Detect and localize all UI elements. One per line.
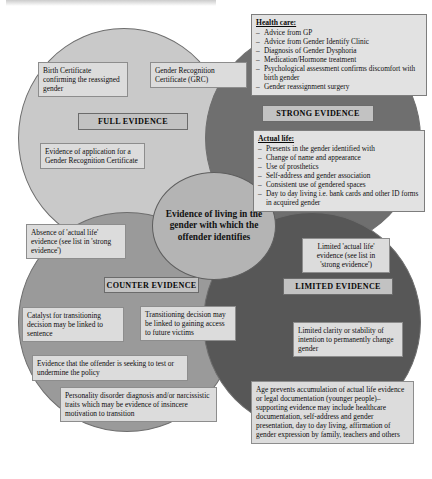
list-item: Diagnosis of Gender Dysphoria: [256, 46, 422, 55]
list-item: Change of name and appearance: [258, 153, 420, 162]
box-catalyst-sentence: Catalyst for transitioning decision may …: [22, 307, 124, 342]
box-personality-disorder-text: Personality disorder diagnosis and/or na…: [61, 388, 216, 421]
label-strong-evidence: STRONG EVIDENCE: [262, 105, 374, 122]
label-full-evidence: FULL EVIDENCE: [78, 113, 188, 130]
list-item: Day to day living i.e. bank cards and ot…: [258, 189, 420, 207]
listbox-actual-life-heading: Actual life:: [258, 134, 420, 143]
label-strong-evidence-text: STRONG EVIDENCE: [276, 109, 359, 118]
list-item: Advice from GP: [256, 28, 422, 37]
list-item: Presents in the gender identified with: [258, 144, 420, 153]
listbox-health-care: Health care: Advice from GPAdvice from G…: [251, 14, 427, 96]
listbox-health-care-heading: Health care:: [256, 18, 422, 27]
box-catalyst-sentence-text: Catalyst for transitioning decision may …: [23, 308, 123, 341]
evidence-diagram: Evidence of living in the gender with wh…: [0, 0, 432, 479]
box-limited-actual-life-text: Limited 'actual life' evidence (see list…: [303, 239, 389, 272]
box-gra-application: Evidence of application for a Gender Rec…: [40, 143, 145, 169]
list-item: Advice from Gender Identify Clinic: [256, 37, 422, 46]
box-absence-actual-life: Absence of 'actual life' evidence (see l…: [26, 224, 126, 259]
box-absence-actual-life-text: Absence of 'actual life' evidence (see l…: [27, 225, 125, 258]
list-item: Use of prosthetics: [258, 162, 420, 171]
box-limited-actual-life: Limited 'actual life' evidence (see list…: [302, 238, 390, 273]
box-birth-certificate: Birth Certificate confirming the reassig…: [38, 62, 128, 97]
box-age-prevents-accumulation: Age prevents accumulation of actual life…: [251, 381, 414, 444]
box-gender-recognition-certificate-text: Gender Recognition Certificate (GRC): [151, 63, 246, 87]
page-edge-artifact: [6, 0, 216, 6]
box-transitioning-access: Transitioning decision may be linked to …: [140, 306, 236, 341]
box-limited-clarity-text: Limited clarity or stability of intentio…: [294, 323, 402, 356]
box-limited-clarity: Limited clarity or stability of intentio…: [293, 322, 403, 357]
box-birth-certificate-text: Birth Certificate confirming the reassig…: [39, 63, 127, 96]
list-item: Self-address and gender association: [258, 171, 420, 180]
box-gender-recognition-certificate: Gender Recognition Certificate (GRC): [150, 62, 247, 88]
label-counter-evidence: COUNTER EVIDENCE: [104, 277, 199, 293]
label-limited-evidence: LIMITED EVIDENCE: [283, 278, 393, 295]
label-limited-evidence-text: LIMITED EVIDENCE: [295, 282, 381, 291]
listbox-actual-life-items: Presents in the gender identified withCh…: [258, 144, 420, 207]
list-item: Psychological assessment confirms discom…: [256, 64, 422, 82]
label-counter-evidence-text: COUNTER EVIDENCE: [106, 281, 196, 290]
box-gra-application-text: Evidence of application for a Gender Rec…: [41, 144, 144, 168]
box-age-prevents-accumulation-text: Age prevents accumulation of actual life…: [252, 382, 413, 443]
box-seeking-to-test-policy-text: Evidence that the offender is seeking to…: [33, 356, 187, 380]
list-item: Consistent use of gendered spaces: [258, 180, 420, 189]
list-item: Medication/Hormone treatment: [256, 55, 422, 64]
listbox-health-care-items: Advice from GPAdvice from Gender Identif…: [256, 28, 422, 91]
list-item: Gender reassignment surgery: [256, 82, 422, 91]
box-personality-disorder: Personality disorder diagnosis and/or na…: [60, 387, 217, 422]
box-transitioning-access-text: Transitioning decision may be linked to …: [141, 307, 235, 340]
centre-label: Evidence of living in the gender with wh…: [153, 209, 275, 243]
box-seeking-to-test-policy: Evidence that the offender is seeking to…: [32, 355, 188, 381]
listbox-actual-life: Actual life: Presents in the gender iden…: [253, 130, 425, 212]
label-full-evidence-text: FULL EVIDENCE: [98, 117, 168, 126]
